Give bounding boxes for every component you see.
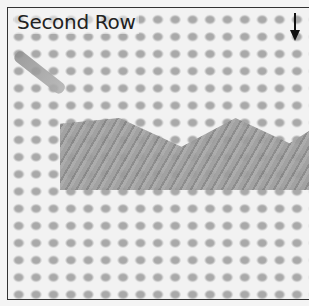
canvas-photo — [7, 7, 309, 300]
figure-title: Second Row — [14, 10, 139, 34]
down-arrow-icon — [289, 13, 301, 41]
stitch-row-band — [60, 118, 309, 190]
stitch-thread — [12, 49, 67, 95]
